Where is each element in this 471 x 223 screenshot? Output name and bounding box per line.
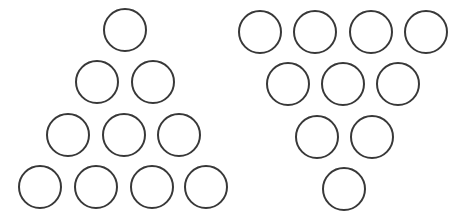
circle — [47, 114, 89, 156]
circle — [75, 166, 117, 208]
circle — [132, 61, 174, 103]
circle — [158, 114, 200, 156]
diagram-canvas — [0, 0, 471, 223]
circle — [185, 166, 227, 208]
circle — [76, 61, 118, 103]
circle — [267, 63, 309, 105]
circle — [351, 116, 393, 158]
circle — [294, 11, 336, 53]
circle — [323, 168, 365, 210]
upward-triangle-group — [19, 9, 227, 208]
circle — [405, 11, 447, 53]
circle — [103, 114, 145, 156]
circle — [377, 63, 419, 105]
circle-triangles-diagram — [0, 0, 471, 223]
circle — [350, 11, 392, 53]
circle — [239, 11, 281, 53]
circle — [296, 116, 338, 158]
circle — [322, 63, 364, 105]
circle — [19, 166, 61, 208]
downward-triangle-group — [239, 11, 447, 210]
circle — [104, 9, 146, 51]
circle — [131, 166, 173, 208]
